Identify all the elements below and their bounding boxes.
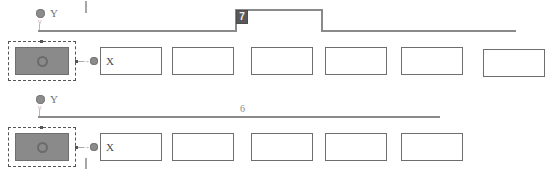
row2-box-3[interactable] <box>251 133 313 161</box>
bottom-tick-mark <box>85 158 87 169</box>
timeline-row-2[interactable]: Y v 6 → X <box>0 86 548 171</box>
row1-box-2[interactable] <box>172 47 234 75</box>
row2-box-1[interactable]: X <box>100 133 162 161</box>
row1-box-6[interactable] <box>483 49 545 77</box>
row1-node-center-icon <box>37 56 48 67</box>
row2-connector-dot-icon[interactable] <box>90 143 98 151</box>
row1-box-1[interactable]: X <box>100 47 162 75</box>
row2-box-4[interactable] <box>325 133 387 161</box>
row1-selected-node[interactable] <box>15 47 69 75</box>
row2-step-label[interactable]: 6 <box>240 104 245 114</box>
row1-box-4[interactable] <box>325 47 387 75</box>
node-dot-icon <box>36 95 45 104</box>
row1-y-stem <box>39 24 40 31</box>
row1-selection-handle-top[interactable] <box>40 40 43 43</box>
row1-node-y-label: Y <box>50 8 58 19</box>
node-dot-icon <box>36 9 45 18</box>
row1-connector-dot-icon[interactable] <box>90 57 98 65</box>
row2-box-1-label: X <box>106 142 114 153</box>
row1-connector-arrow-icon: → <box>82 57 90 65</box>
row2-node-center-icon <box>37 142 48 153</box>
row2-connector-arrow-icon: → <box>82 143 90 151</box>
diagram-canvas: Y v 7 → X <box>0 0 548 171</box>
row1-step-badge[interactable]: 7 <box>237 11 247 23</box>
row2-selected-node[interactable] <box>15 133 69 161</box>
row2-y-stem <box>39 110 40 117</box>
top-tick-mark <box>85 1 87 13</box>
row2-box-5[interactable] <box>401 133 463 161</box>
row2-selection-handle-top[interactable] <box>40 126 43 129</box>
row1-box-1-label: X <box>106 56 114 67</box>
row2-box-2[interactable] <box>172 133 234 161</box>
row2-node-y-label: Y <box>50 94 58 105</box>
row1-box-5[interactable] <box>401 47 463 75</box>
timeline-row-1[interactable]: Y v 7 → X <box>0 0 548 88</box>
row1-box-3[interactable] <box>251 47 313 75</box>
